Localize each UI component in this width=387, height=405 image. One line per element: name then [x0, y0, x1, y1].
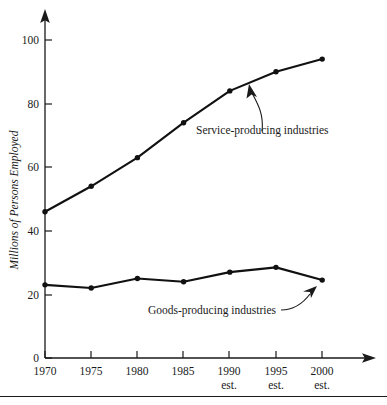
goods-producing-line: [45, 267, 322, 288]
x-tick-sublabel-1995: est.: [268, 379, 284, 391]
goods-leader-line: [281, 294, 310, 310]
bottom-rule: [0, 396, 387, 397]
service-data-point: [273, 69, 278, 74]
service-producing-label: Service-producing industries: [196, 124, 329, 137]
y-tick-label-80: 80: [28, 98, 40, 110]
goods-data-point: [227, 269, 232, 274]
x-tick-marks: [45, 351, 322, 358]
series-goods-producing: [42, 265, 325, 291]
goods-producing-label: Goods-producing industries: [148, 304, 277, 317]
goods-data-point: [135, 276, 140, 281]
x-tick-sublabel-2000: est.: [314, 379, 330, 391]
x-tick-label-1985: 1985: [172, 365, 195, 377]
service-data-point: [320, 56, 325, 61]
y-tick-label-100: 100: [22, 34, 40, 46]
y-tick-marks: [45, 40, 52, 358]
goods-data-point: [42, 282, 47, 287]
x-tick-label-1990: 1990: [218, 365, 241, 377]
service-data-point: [227, 88, 232, 93]
goods-data-point: [181, 279, 186, 284]
x-tick-label-1975: 1975: [80, 365, 103, 377]
service-data-point: [42, 209, 47, 214]
service-data-point: [89, 184, 94, 189]
goods-data-point: [320, 277, 325, 282]
service-data-point: [181, 120, 186, 125]
y-tick-label-60: 60: [28, 161, 40, 173]
y-tick-label-20: 20: [28, 289, 40, 301]
x-tick-labels: 1970 1975 1980 1985 1990 1995 2000 est. …: [34, 365, 334, 391]
goods-data-point: [89, 285, 94, 290]
service-data-point: [135, 155, 140, 160]
x-tick-label-1970: 1970: [34, 365, 57, 377]
y-tick-labels: 100 80 60 40 20 0: [22, 34, 40, 364]
x-axis: [45, 353, 376, 363]
x-tick-sublabel-1990: est.: [221, 379, 237, 391]
figure-container: 100 80 60 40 20 0 Millions of Persons Em…: [0, 0, 387, 405]
y-axis: [40, 9, 50, 358]
annotation-service-producing: Service-producing industries: [196, 84, 329, 137]
service-leader-arrowhead: [247, 84, 258, 99]
x-tick-label-2000: 2000: [311, 365, 334, 377]
y-axis-title: Millions of Persons Employed: [8, 130, 21, 270]
annotation-goods-producing: Goods-producing industries: [148, 286, 317, 317]
y-tick-label-0: 0: [33, 352, 39, 364]
goods-leader-arrowhead: [303, 286, 317, 298]
x-tick-label-1995: 1995: [265, 365, 288, 377]
y-tick-label-40: 40: [28, 225, 40, 237]
goods-data-point: [273, 265, 278, 270]
employment-line-chart: 100 80 60 40 20 0 Millions of Persons Em…: [0, 0, 387, 405]
x-tick-label-1980: 1980: [126, 365, 149, 377]
